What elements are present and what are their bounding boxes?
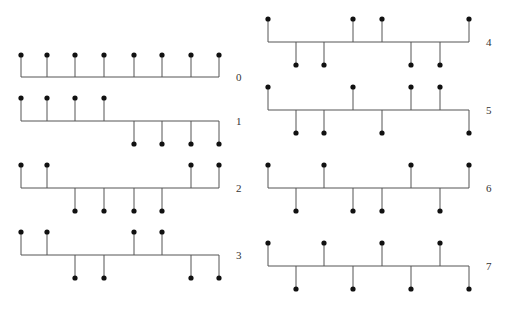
sample-dot [18, 95, 23, 100]
sample-dot [293, 130, 298, 135]
sample-dot [379, 240, 384, 245]
sample-dot [216, 275, 221, 280]
sample-dot [437, 240, 442, 245]
function-index-label: 2 [236, 182, 242, 194]
sample-dot [350, 84, 355, 89]
sample-dot [44, 52, 49, 57]
sample-dot [216, 141, 221, 146]
sample-dot [188, 275, 193, 280]
sample-dot [321, 240, 326, 245]
sample-dot [408, 286, 413, 291]
function-index-label: 1 [236, 115, 242, 127]
function-index-label: 4 [486, 36, 492, 48]
sample-dot [265, 84, 270, 89]
sample-dot [72, 208, 77, 213]
sample-dot [216, 52, 221, 57]
sample-dot [466, 130, 471, 135]
function-index-label: 5 [486, 104, 492, 116]
sample-dot [408, 84, 413, 89]
sample-dot [293, 208, 298, 213]
sample-dot [159, 52, 164, 57]
sample-dot [321, 162, 326, 167]
sample-dot [466, 286, 471, 291]
sample-dot [44, 229, 49, 234]
sample-dot [18, 229, 23, 234]
sample-dot [437, 62, 442, 67]
sample-dot [101, 208, 106, 213]
sample-dot [293, 286, 298, 291]
walsh-functions-diagram: 01234567 [0, 0, 508, 310]
sample-dot [131, 229, 136, 234]
sample-dot [379, 130, 384, 135]
sample-dot [408, 162, 413, 167]
function-index-label: 7 [486, 260, 492, 272]
function-index-label: 0 [236, 71, 242, 83]
walsh-function-2: 2 [18, 162, 241, 213]
function-index-label: 6 [486, 182, 492, 194]
sample-dot [131, 208, 136, 213]
sample-dot [72, 52, 77, 57]
sample-dot [321, 130, 326, 135]
sample-dot [188, 52, 193, 57]
sample-dot [101, 95, 106, 100]
sample-dot [379, 208, 384, 213]
sample-dot [466, 16, 471, 21]
sample-dot [101, 52, 106, 57]
sample-dot [350, 286, 355, 291]
walsh-function-6: 6 [265, 162, 492, 213]
sample-dot [188, 162, 193, 167]
walsh-function-0: 0 [18, 52, 242, 83]
sample-dot [18, 52, 23, 57]
sample-dot [265, 16, 270, 21]
sample-dot [437, 84, 442, 89]
sample-dot [72, 275, 77, 280]
sample-dot [131, 141, 136, 146]
sample-dot [350, 208, 355, 213]
sample-dot [44, 162, 49, 167]
sample-dot [466, 162, 471, 167]
sample-dot [293, 62, 298, 67]
sample-dot [265, 162, 270, 167]
sample-dot [437, 208, 442, 213]
sample-dot [216, 162, 221, 167]
sample-dot [18, 162, 23, 167]
walsh-function-3: 3 [18, 229, 242, 280]
sample-dot [159, 208, 164, 213]
sample-dot [188, 141, 193, 146]
walsh-function-4: 4 [265, 16, 492, 67]
sample-dot [350, 16, 355, 21]
sample-dot [408, 62, 413, 67]
sample-dot [159, 141, 164, 146]
walsh-function-5: 5 [265, 84, 492, 135]
sample-dot [131, 52, 136, 57]
sample-dot [321, 62, 326, 67]
sample-dot [159, 229, 164, 234]
function-index-label: 3 [236, 249, 242, 261]
sample-dot [379, 16, 384, 21]
sample-dot [265, 240, 270, 245]
walsh-function-1: 1 [18, 95, 241, 146]
sample-dot [44, 95, 49, 100]
walsh-function-7: 7 [265, 240, 492, 291]
sample-dot [101, 275, 106, 280]
sample-dot [72, 95, 77, 100]
